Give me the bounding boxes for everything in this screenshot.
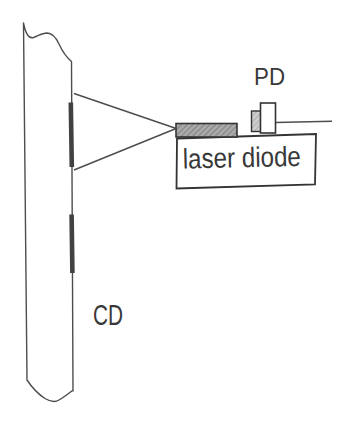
cd-pit-bar-lower	[72, 215, 73, 274]
pd-output-wire	[276, 121, 333, 122]
cd-strip-outline	[24, 23, 74, 401]
laser-beam-lower	[74, 129, 176, 170]
cd-label: CD	[93, 299, 123, 331]
pd-label: PD	[254, 63, 285, 90]
cd-pickup-diagram: PD laser diode CD	[0, 0, 345, 427]
laser-chip	[176, 124, 237, 138]
cd-pit-bar-upper	[71, 103, 72, 168]
photodiode-body	[261, 103, 276, 133]
diagram-svg: PD laser diode CD	[0, 0, 345, 427]
laser-diode-label: laser diode	[182, 141, 301, 175]
laser-beam-upper	[74, 94, 176, 129]
